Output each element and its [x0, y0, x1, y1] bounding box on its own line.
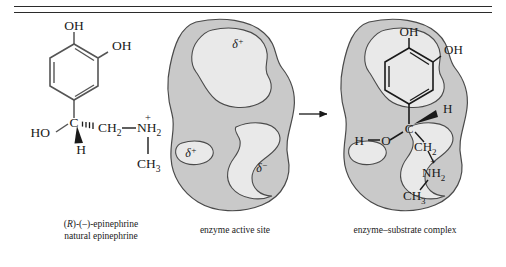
caption-left-line1: (R)-(–)-epinephrine: [16, 218, 186, 230]
svg-text:CH3: CH3: [137, 156, 161, 174]
label-oh-side: OH: [112, 38, 132, 53]
complex-label-oh-side: OH: [444, 42, 463, 57]
catechol-ring: [50, 44, 98, 100]
caption-middle: enzyme active site: [172, 224, 298, 236]
bond-ring-to-oh-side: [98, 52, 108, 58]
complex-label-oh-top: OH: [400, 24, 419, 39]
complex-label-h-of-oh: H: [355, 133, 364, 148]
bond-stereocenter-to-ho: [56, 124, 68, 132]
label-n-subscript: 2: [157, 128, 162, 138]
label-stereocenter: C: [69, 115, 78, 130]
complex-label-ch3-subscript: 3: [421, 196, 426, 206]
caption-left-line2: natural epinephrine: [16, 230, 186, 242]
caption-right: enzyme–substrate complex: [316, 224, 494, 236]
label-n: NH: [137, 120, 157, 135]
label-ch2: CH: [98, 120, 117, 135]
label-h: H: [76, 142, 86, 157]
enzyme-substrate-complex: OH OH C H H O CH2 + NH2 CH3: [341, 19, 468, 210]
label-ch3-subscript: 3: [156, 164, 161, 174]
svg-text:NH2: NH2: [137, 120, 162, 138]
label-ch2-subscript: 2: [117, 128, 122, 138]
complex-label-o: O: [381, 133, 390, 148]
complex-label-n: NH: [422, 165, 441, 180]
complex-label-ch2: CH: [414, 139, 432, 154]
caption-left: (R)-(–)-epinephrine natural epinephrine: [16, 218, 186, 242]
svg-text:CH2: CH2: [98, 120, 122, 138]
enzyme-active-site: δ+ δ+ δ−: [168, 19, 295, 210]
hashed-wedge-bond: [83, 122, 94, 129]
complex-label-stereocenter: C: [405, 121, 414, 136]
label-ch3: CH: [137, 156, 156, 171]
complex-label-n-subscript: 2: [441, 173, 446, 183]
complex-label-ch3: CH: [403, 188, 421, 203]
label-ho: HO: [31, 125, 51, 140]
complex-label-h: H: [443, 101, 452, 116]
complex-label-ch2-subscript: 2: [432, 147, 437, 157]
label-oh-top: OH: [64, 18, 84, 33]
epinephrine-structure: OH OH HO C H CH2 + NH2 CH3: [31, 18, 162, 174]
figure-root: OH OH HO C H CH2 + NH2 CH3 δ+: [0, 0, 506, 267]
